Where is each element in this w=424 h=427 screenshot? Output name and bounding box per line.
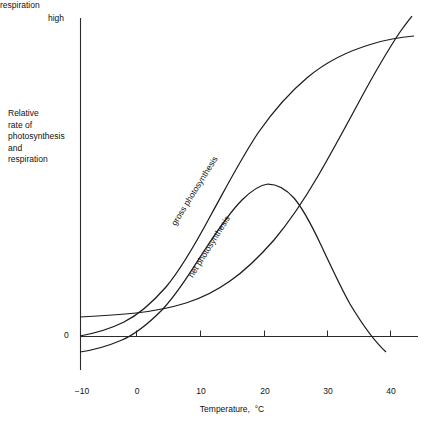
curve-net-photosynthesis xyxy=(80,184,386,352)
x-tick-label-20: 20 xyxy=(250,386,280,396)
y-axis-high-label: high xyxy=(48,13,64,25)
chart-canvas xyxy=(0,0,424,427)
curve-label-respiration: respiration xyxy=(0,0,40,10)
x-tick-label-10: 10 xyxy=(186,386,216,396)
y-axis-zero-label: 0 xyxy=(64,330,69,342)
x-axis-title: Temperature, °C xyxy=(152,404,312,416)
y-axis-title: Relative rate of photosynthesis and resp… xyxy=(8,108,88,166)
x-tick-label-30: 30 xyxy=(313,386,343,396)
x-tick-label--10: −10 xyxy=(67,386,97,396)
chart-figure: Relative rate of photosynthesis and resp… xyxy=(0,0,424,427)
curve-gross-photosynthesis xyxy=(80,36,414,336)
x-tick-label-0: 0 xyxy=(122,386,152,396)
x-tick-label-40: 40 xyxy=(376,386,406,396)
curve-respiration xyxy=(80,16,412,317)
